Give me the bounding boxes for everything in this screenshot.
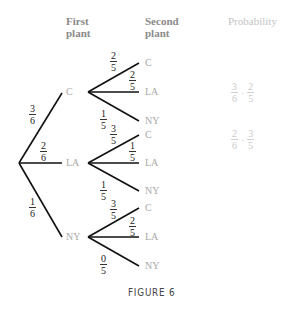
fraction-ny-ny: 0 5 — [100, 254, 107, 276]
probability-la-c: 2 6 · 3 5 — [231, 129, 254, 151]
fraction-c-c: 2 5 — [110, 51, 117, 73]
header-first-plant: First plant — [66, 15, 90, 39]
denominator: 5 — [248, 140, 253, 151]
denominator: 6 — [232, 140, 237, 151]
numerator: 0 — [100, 254, 107, 265]
fraction-la-c: 3 5 — [110, 124, 117, 146]
node-ny-la: LA — [145, 232, 158, 242]
figure-caption: FIGURE 6 — [128, 286, 175, 299]
header-first-line1: First — [66, 15, 90, 27]
denominator: 6 — [41, 152, 46, 163]
node-c-la: LA — [145, 87, 158, 97]
denominator: 5 — [101, 265, 106, 276]
header-second-plant: Second plant — [145, 15, 179, 39]
denominator: 5 — [111, 135, 116, 146]
probability-c-la: 3 6 · 2 5 — [231, 82, 254, 104]
denominator: 6 — [30, 208, 35, 219]
numerator: 3 — [110, 124, 117, 135]
denominator: 5 — [101, 191, 106, 202]
numerator: 2 — [40, 141, 47, 152]
prob-fraction-b: 2 5 — [247, 82, 254, 104]
fraction-la-la: 1 5 — [129, 141, 136, 163]
node-la-c: C — [145, 130, 152, 140]
node-first-ny: NY — [66, 232, 80, 242]
denominator: 5 — [101, 120, 106, 131]
header-first-line2: plant — [66, 27, 90, 39]
numerator: 2 — [129, 70, 136, 81]
fraction-c-la: 2 5 — [129, 70, 136, 92]
node-la-ny: NY — [145, 186, 159, 196]
node-first-c: C — [66, 87, 73, 97]
numerator: 1 — [129, 141, 136, 152]
numerator: 2 — [129, 216, 136, 227]
prob-fraction-a: 3 6 — [231, 82, 238, 104]
header-probability: Probability — [228, 15, 277, 27]
node-c-ny: NY — [145, 116, 159, 126]
fraction-root-ny: 1 6 — [29, 197, 36, 219]
numerator: 3 — [231, 82, 238, 93]
node-ny-c: C — [145, 203, 152, 213]
fraction-root-c: 3 6 — [29, 104, 36, 126]
numerator: 3 — [29, 104, 36, 115]
fraction-la-ny: 1 5 — [100, 180, 107, 202]
denominator: 5 — [130, 152, 135, 163]
node-c-c: C — [145, 58, 152, 68]
numerator: 2 — [231, 129, 238, 140]
denominator: 5 — [111, 62, 116, 73]
denominator: 6 — [30, 115, 35, 126]
numerator: 1 — [100, 109, 107, 120]
multiply-dot: · — [241, 88, 244, 99]
numerator: 3 — [247, 129, 254, 140]
denominator: 5 — [130, 81, 135, 92]
numerator: 3 — [110, 199, 117, 210]
numerator: 1 — [100, 180, 107, 191]
denominator: 5 — [111, 210, 116, 221]
node-la-la: LA — [145, 158, 158, 168]
denominator: 5 — [248, 93, 253, 104]
fraction-c-ny: 1 5 — [100, 109, 107, 131]
multiply-dot: · — [241, 135, 244, 146]
branch-c-ny — [88, 92, 139, 121]
numerator: 2 — [247, 82, 254, 93]
branch-root-ny — [19, 163, 62, 237]
prob-fraction-b: 3 5 — [247, 129, 254, 151]
fraction-ny-la: 2 5 — [129, 216, 136, 238]
numerator: 1 — [29, 197, 36, 208]
numerator: 2 — [110, 51, 117, 62]
header-second-line1: Second — [145, 15, 179, 27]
node-first-la: LA — [66, 158, 79, 168]
denominator: 5 — [130, 227, 135, 238]
branch-ny-ny — [88, 237, 139, 266]
header-second-line2: plant — [145, 27, 179, 39]
denominator: 6 — [232, 93, 237, 104]
branch-la-ny — [88, 163, 139, 191]
node-ny-ny: NY — [145, 261, 159, 271]
prob-fraction-a: 2 6 — [231, 129, 238, 151]
fraction-ny-c: 3 5 — [110, 199, 117, 221]
fraction-root-la: 2 6 — [40, 141, 47, 163]
